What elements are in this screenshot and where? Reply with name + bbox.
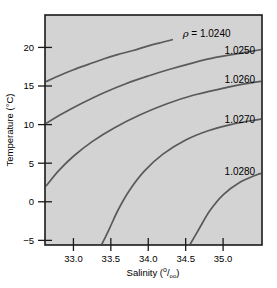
- y-tick-label: 0: [29, 196, 34, 207]
- y-tick-label: 5: [29, 158, 34, 169]
- y-tick-label: 15: [23, 80, 34, 91]
- contour-value: 1.0250: [225, 45, 256, 56]
- contour-value: 1.0270: [225, 114, 256, 125]
- contour-label: 1.0280: [225, 166, 256, 177]
- y-tick-label: −5: [23, 235, 34, 246]
- y-tick-label: 20: [23, 42, 34, 53]
- x-tick-label: 33.0: [64, 253, 83, 264]
- x-axis-title-text: Salinity (: [127, 267, 164, 278]
- x-tick-label: 34.0: [139, 253, 158, 264]
- contour-value: 1.0260: [225, 74, 256, 85]
- equals-sign: =: [189, 28, 200, 39]
- x-axis-title: Salinity (o/oo): [127, 266, 180, 279]
- x-tick-label: 33.5: [102, 253, 121, 264]
- contour-value: 1.0280: [225, 166, 256, 177]
- contour-label: 1.0250: [225, 45, 256, 56]
- contour-value: 1.0240: [200, 28, 231, 39]
- x-tick-label: 35.0: [214, 253, 233, 264]
- contour-label: 1.0270: [225, 114, 256, 125]
- contour-label: 1.0260: [225, 74, 256, 85]
- density-salinity-temperature-chart: −505101520 33.033.534.034.535.0 ρ = 1.02…: [0, 0, 277, 288]
- y-axis-title: Temperature (°C): [4, 94, 15, 167]
- contour-label: ρ = 1.0240: [182, 28, 231, 39]
- chart-svg: −505101520 33.033.534.034.535.0 ρ = 1.02…: [0, 0, 277, 288]
- y-tick-label: 10: [23, 119, 34, 130]
- x-tick-label: 34.5: [176, 253, 195, 264]
- x-axis-title-close: ): [176, 267, 179, 278]
